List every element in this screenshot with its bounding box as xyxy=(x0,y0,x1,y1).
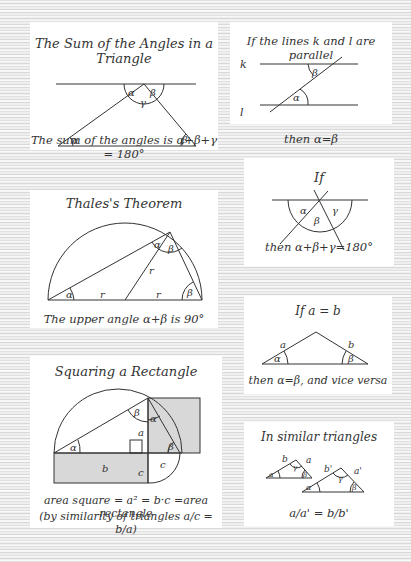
svg-text:α: α xyxy=(70,442,77,453)
svg-text:a: a xyxy=(306,455,311,465)
squaring-caption-line2: (by similarity of triangles a/c = b/a) xyxy=(30,510,222,536)
svg-text:α: α xyxy=(154,239,161,250)
panel-thales-theorem: Thales's Theorem α β r r r α β The upper… xyxy=(30,190,218,328)
svg-text:α: α xyxy=(274,353,281,364)
svg-text:β: β xyxy=(313,215,320,226)
thales-semicircle-diagram: α β r r r α β xyxy=(30,190,218,328)
svg-text:α: α xyxy=(306,483,312,492)
svg-text:r: r xyxy=(100,289,106,300)
panel-similar-triangles: In similar triangles b γ a α β b' γ a' α… xyxy=(244,422,394,526)
svg-text:b: b xyxy=(348,339,354,350)
parallel-lines-diagram: k l β α xyxy=(230,22,392,124)
svg-text:β: β xyxy=(302,471,307,479)
svg-text:b: b xyxy=(282,454,288,464)
svg-text:a: a xyxy=(138,427,144,438)
panel-squaring-rectangle: Squaring a Rectangle α β α a β b c c are… xyxy=(30,356,222,528)
svg-text:k: k xyxy=(240,58,247,71)
svg-text:b: b xyxy=(102,463,108,474)
svg-text:r: r xyxy=(149,265,155,276)
svg-text:β: β xyxy=(149,87,156,98)
svg-text:β: β xyxy=(351,483,357,492)
svg-text:α: α xyxy=(300,205,307,216)
svg-text:r: r xyxy=(156,289,162,300)
panel-isosceles: If a = b a b α β then α=β, and vice vers… xyxy=(244,296,392,394)
triangle-angle-sum-diagram: α β γ α β xyxy=(30,22,218,122)
straight-angle-caption: then α+β+γ=180° xyxy=(244,240,394,254)
panel-parallel-lines: If the lines k and l are parallel k l β … xyxy=(230,22,392,124)
svg-text:β: β xyxy=(167,441,174,452)
svg-text:β: β xyxy=(186,287,193,298)
svg-text:γ: γ xyxy=(140,97,146,108)
svg-text:α: α xyxy=(66,289,73,300)
svg-text:β: β xyxy=(311,67,318,78)
isosceles-caption: then α=β, and vice versa xyxy=(244,374,392,387)
svg-text:α: α xyxy=(128,87,135,98)
svg-text:β: β xyxy=(133,407,140,418)
thales-caption: The upper angle α+β is 90° xyxy=(30,312,218,326)
svg-text:c: c xyxy=(160,459,166,470)
svg-text:α: α xyxy=(293,92,300,103)
svg-text:α: α xyxy=(150,413,157,424)
svg-text:l: l xyxy=(240,106,244,119)
svg-text:a': a' xyxy=(354,466,362,476)
svg-text:b': b' xyxy=(324,464,332,474)
svg-text:γ: γ xyxy=(332,205,338,216)
parallel-caption: then α=β xyxy=(230,132,392,146)
sum-angles-caption: The sum of the angles is α+β+γ = 180° xyxy=(30,133,218,161)
svg-text:a: a xyxy=(280,339,286,350)
svg-text:c: c xyxy=(138,467,144,478)
panel-sum-of-angles: The Sum of the Angles in a Triangle α β … xyxy=(30,22,218,150)
panel-straight-angle: If α β γ then α+β+γ=180° xyxy=(244,158,394,266)
similar-caption: a/a' = b/b' xyxy=(244,506,394,520)
svg-text:α: α xyxy=(269,471,274,479)
svg-text:β: β xyxy=(347,353,354,364)
svg-text:β: β xyxy=(167,243,174,254)
svg-text:γ: γ xyxy=(338,474,343,483)
